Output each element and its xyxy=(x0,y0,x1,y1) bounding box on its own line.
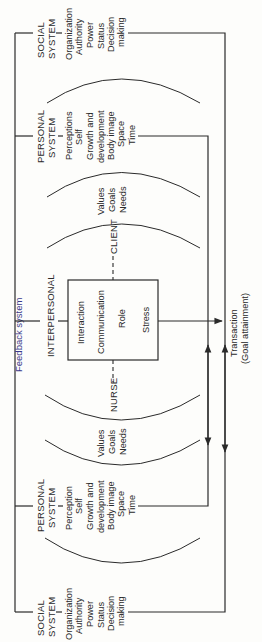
interpersonal-item: Communication xyxy=(96,290,106,354)
personal-bottom-arc xyxy=(45,538,200,563)
social-top-item: Decision xyxy=(106,17,116,52)
social-bottom-item: Power xyxy=(85,601,95,627)
social-bottom-item: Decision xyxy=(106,596,116,631)
social-top-item: making xyxy=(116,17,126,47)
personal-top-item: Time xyxy=(127,125,137,145)
nurse-arc xyxy=(45,395,200,420)
personal-top-item: Space xyxy=(116,121,126,147)
personal-bottom-title: PERSONAL xyxy=(35,479,46,532)
social-system-top: SOCIAL SYSTEM Organization Authority Pow… xyxy=(35,8,126,60)
personal-system-top: PERSONAL SYSTEM Perceptions Self Growth … xyxy=(35,110,137,163)
client-arc xyxy=(47,224,200,248)
nurse-values-item: Needs xyxy=(118,428,128,455)
social-top-title-2: SYSTEM xyxy=(46,19,57,59)
interpersonal-item: Interaction xyxy=(76,301,86,344)
goal-attainment-label: (Goal attainment) xyxy=(240,293,250,364)
personal-top-arrow xyxy=(138,136,208,445)
social-bottom-arrow xyxy=(128,345,225,612)
interpersonal-label: INTERPERSONAL xyxy=(45,274,56,357)
personal-bottom-item: development xyxy=(96,480,106,533)
social-top-title: SOCIAL xyxy=(35,22,46,58)
personal-bottom-title-2: SYSTEM xyxy=(46,488,57,528)
personal-bottom-item: Body image xyxy=(106,481,116,530)
personal-bottom-arrow xyxy=(138,345,208,506)
personal-bottom-item: Time xyxy=(127,495,137,515)
personal-system-bottom: PERSONAL SYSTEM Perception Self Growth a… xyxy=(35,479,137,533)
social-bottom-item: Status xyxy=(96,602,106,628)
nurse-values: Values Goals Needs xyxy=(96,428,128,457)
nurse-values-item: Goals xyxy=(107,430,117,454)
personal-top-item: development xyxy=(96,110,106,163)
personal-top-item: Growth and xyxy=(85,113,95,161)
feedback-label: Feedback system xyxy=(13,297,24,372)
social-bottom-title-2: SYSTEM xyxy=(46,597,57,637)
client-values: Values Goals Needs xyxy=(96,186,128,215)
nurse-label: NURSE xyxy=(108,378,119,412)
outcome: Transaction (Goal attainment) xyxy=(229,293,250,364)
social-top-item: Authority xyxy=(74,18,84,55)
personal-bottom-item: Space xyxy=(116,491,126,517)
social-top-item: Power xyxy=(85,22,95,48)
social-system-bottom: SOCIAL SYSTEM Organization Authority Pow… xyxy=(35,588,126,640)
client-values-item: Needs xyxy=(118,186,128,213)
social-top-item: Organization xyxy=(64,8,74,60)
king-goal-attainment-diagram: Feedback system SOCIAL SYSTEM Organizati… xyxy=(0,0,262,642)
interpersonal-item: Role xyxy=(117,309,127,328)
personal-top-item: Body image xyxy=(106,111,116,160)
client-values-item: Goals xyxy=(107,188,117,212)
personal-top-title-2: SYSTEM xyxy=(46,118,57,158)
personal-top-title: PERSONAL xyxy=(35,110,46,163)
transaction-label: Transaction xyxy=(229,309,239,357)
social-top-arrow xyxy=(128,33,225,452)
social-top-item: Status xyxy=(96,23,106,49)
client-label: CLIENT xyxy=(108,219,119,254)
interpersonal-item: Stress xyxy=(141,307,151,333)
personal-bottom-item: Self xyxy=(74,498,84,514)
personal-top-arc xyxy=(47,79,200,103)
personal-bottom-item: Perception xyxy=(64,486,74,530)
social-bottom-item: Organization xyxy=(64,588,74,640)
social-bottom-item: making xyxy=(116,596,126,626)
social-bottom-item: Authority xyxy=(74,597,84,634)
personal-top-item: Self xyxy=(74,129,84,145)
personal-top-item: Perceptions xyxy=(64,111,74,160)
client-values-item: Values xyxy=(96,187,106,215)
personal-bottom-item: Growth and xyxy=(85,483,95,531)
social-bottom-title: SOCIAL xyxy=(35,600,46,636)
nurse-values-item: Values xyxy=(96,429,106,457)
interpersonal-box-items: Interaction Communication Role Stress xyxy=(76,290,151,354)
